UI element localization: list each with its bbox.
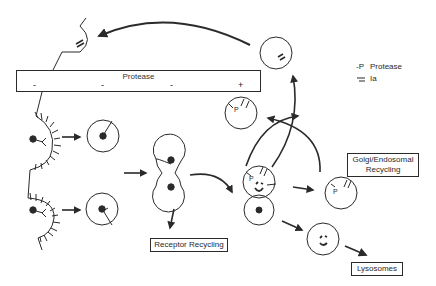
- fused-endosome: [153, 134, 186, 212]
- arrow-to-lysosomes: [345, 246, 366, 255]
- arrow-to-lysosome-vesicle: [282, 221, 302, 230]
- arrow-to-sorting-endosome: [190, 174, 232, 192]
- arrow-to-golgi-vesicle: [293, 187, 313, 190]
- protease-vesicle-p-label: P: [234, 106, 239, 113]
- membrane-fusion-site: [53, 18, 88, 70]
- receptor-recycling-box: Receptor Recycling: [150, 238, 228, 252]
- vesicle-lower: [86, 193, 118, 225]
- protease-vesicle: [225, 97, 257, 129]
- protease-sign: +: [238, 80, 243, 90]
- golgi-vesicle-p-label: P: [333, 188, 338, 195]
- top-vesicle: [260, 37, 292, 69]
- vesicle-upper: [87, 120, 119, 152]
- lysosomes-box: Lysosomes: [351, 262, 403, 276]
- protease-sign: -: [170, 80, 173, 90]
- protease-bar: Protease - - - +: [16, 70, 261, 92]
- arrow-to-protease-vesicle: [246, 116, 298, 166]
- arrow-to-top-vesicle: [272, 76, 295, 167]
- legend-protease-label: Protease: [370, 62, 402, 71]
- protease-sign: -: [33, 80, 36, 90]
- lysosomes-label: Lysosomes: [357, 264, 397, 273]
- arrow-golgi-to-protease-vesicle: [268, 118, 320, 172]
- legend-ia-icon: [357, 78, 365, 81]
- golgi-endosomal-label-line2: Recycling: [348, 165, 418, 175]
- coated-pit-upper: [30, 112, 61, 170]
- receptor-recycling-label: Receptor Recycling: [154, 240, 223, 249]
- arrow-exocytosis: [99, 22, 250, 45]
- ia-marker-icon: [76, 40, 84, 47]
- protease-title: Protease: [17, 72, 260, 81]
- sorting-endosome-p-label: P: [249, 175, 254, 182]
- legend-ia-label: Ia: [370, 74, 377, 83]
- golgi-vesicle: [325, 177, 357, 209]
- lysosome-vesicle: [307, 223, 339, 255]
- protease-sign: -: [101, 80, 104, 90]
- sorting-endosome: [243, 166, 276, 225]
- golgi-endosomal-recycling-box: Golgi/Endosomal Recycling: [347, 153, 419, 177]
- legend-protease-symbol: -P: [356, 62, 364, 71]
- golgi-endosomal-label-line1: Golgi/Endosomal: [348, 155, 418, 165]
